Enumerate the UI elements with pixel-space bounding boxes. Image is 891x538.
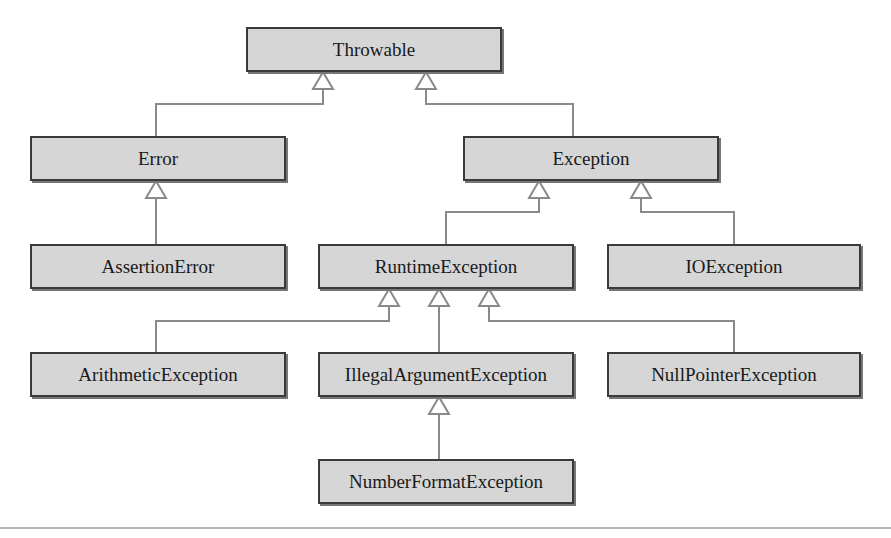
inheritance-arrow-icon <box>429 397 449 414</box>
edge-arithmetic-runtime <box>156 306 389 352</box>
inheritance-arrow-icon <box>379 289 399 306</box>
inheritance-arrow-icon <box>146 181 166 198</box>
edge-runtimeexception-exception <box>446 198 539 244</box>
edge-ioexception-exception <box>641 198 734 244</box>
inheritance-arrow-icon <box>529 181 549 198</box>
node-assertion-error: AssertionError <box>30 244 286 289</box>
edge-error-throwable <box>156 89 323 136</box>
node-error: Error <box>30 136 286 181</box>
node-io-exception: IOException <box>607 244 861 289</box>
exception-hierarchy-diagram: Throwable Error Exception AssertionError… <box>0 0 891 538</box>
node-number-format-exception: NumberFormatException <box>318 459 574 504</box>
inheritance-arrow-icon <box>313 72 333 89</box>
node-exception: Exception <box>463 136 719 181</box>
horizontal-divider <box>0 527 891 529</box>
edge-exception-throwable <box>426 89 573 136</box>
edge-nullpointer-runtime <box>489 306 734 352</box>
inheritance-arrow-icon <box>416 72 436 89</box>
node-arithmetic-exception: ArithmeticException <box>30 352 286 397</box>
node-null-pointer-exception: NullPointerException <box>607 352 861 397</box>
node-illegal-argument-exception: IllegalArgumentException <box>318 352 574 397</box>
inheritance-arrow-icon <box>631 181 651 198</box>
inheritance-arrow-icon <box>429 289 449 306</box>
node-throwable: Throwable <box>246 27 502 72</box>
inheritance-arrow-icon <box>479 289 499 306</box>
node-runtime-exception: RuntimeException <box>318 244 574 289</box>
